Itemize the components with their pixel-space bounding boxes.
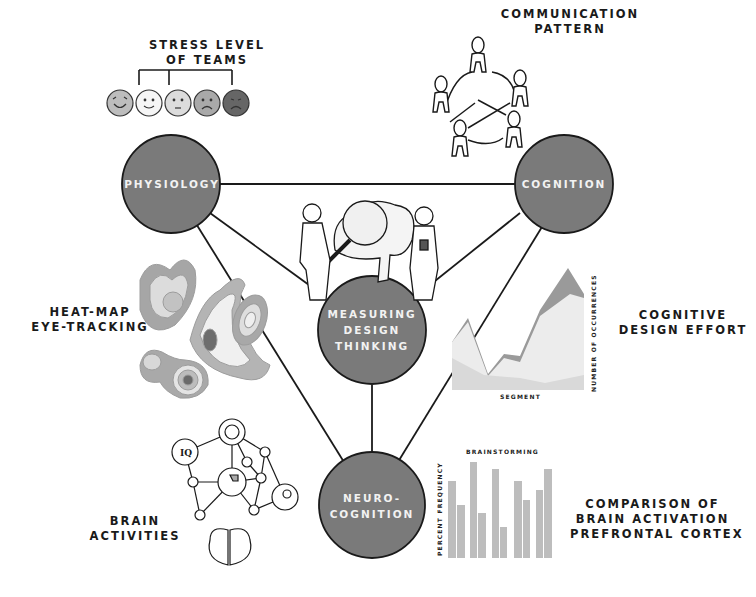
neutral-face-icon	[165, 90, 191, 116]
stress-level-label: STRESS LEVEL OF TEAMS	[132, 38, 282, 68]
gear-icon	[219, 419, 245, 445]
heatmap-illustration	[140, 260, 274, 398]
communication-pattern-label: COMMUNICATION PATTERN	[500, 7, 640, 37]
very-sad-face-icon	[223, 90, 249, 116]
bar-chart-title: BRAINSTORMING	[466, 448, 539, 455]
stress-bracket	[139, 70, 232, 85]
brainstorming-bar-chart	[448, 462, 552, 558]
people-icons	[433, 37, 528, 156]
brain-activation-label: COMPARISON OF BRAIN ACTIVATION PREFRONTA…	[570, 497, 735, 542]
neurocognition-node-label: NEURO- COGNITION	[322, 490, 422, 522]
area-chart-xlabel: SEGMENT	[500, 393, 541, 400]
stress-faces	[107, 90, 249, 116]
person-icon	[452, 120, 468, 156]
physiology-node-label: PHYSIOLOGY	[122, 176, 222, 192]
very-happy-face-icon	[107, 90, 133, 116]
person-icon	[506, 111, 522, 147]
puzzle-icon	[218, 468, 246, 496]
person-icon	[512, 70, 528, 106]
cognitive-effort-label: COGNITIVE DESIGN EFFORT	[608, 308, 756, 338]
brain-activities-label: BRAIN ACTIVITIES	[75, 514, 195, 544]
brain-icon	[209, 529, 251, 565]
happy-face-icon	[136, 90, 162, 116]
svg-text:IQ: IQ	[180, 448, 192, 458]
sad-face-icon	[194, 90, 220, 116]
person-icon	[470, 37, 486, 72]
magnifier-icon	[343, 201, 387, 245]
person-icon	[433, 76, 449, 112]
cognition-node-label: COGNITION	[514, 176, 614, 192]
bar-chart-ylabel: PERCENT FREQUENCY	[436, 462, 443, 556]
cognitive-effort-area-chart	[452, 268, 584, 390]
center-node-label: MEASURING DESIGN THINKING	[320, 306, 424, 354]
area-chart-ylabel: NUMBER OF OCCURRENCES	[590, 274, 597, 392]
heatmap-label: HEAT-MAP EYE-TRACKING	[30, 305, 150, 335]
